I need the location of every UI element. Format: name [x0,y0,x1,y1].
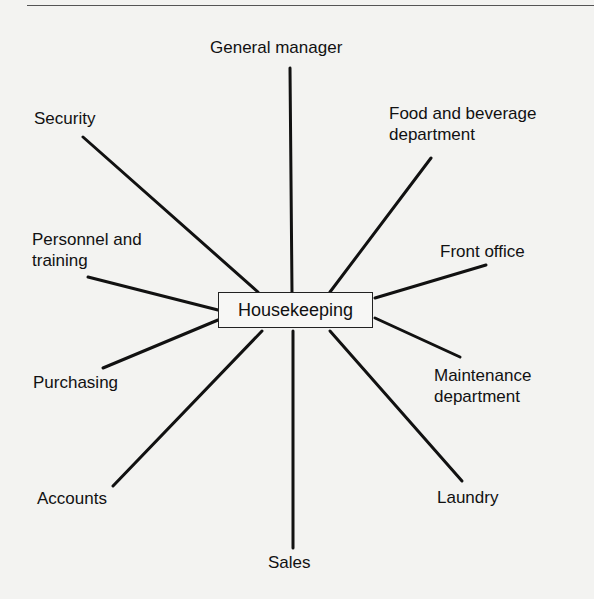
node-sales: Sales [268,552,311,573]
node-maintenance: Maintenance department [434,365,531,407]
line-maintenance [375,318,460,357]
line-personnel [88,277,218,310]
node-food-beverage: Food and beverage department [389,103,536,145]
node-security: Security [34,108,95,129]
line-purchasing [103,320,218,368]
housekeeping-node: Housekeeping [218,292,373,328]
node-personnel-training: Personnel and training [32,229,142,271]
node-accounts: Accounts [37,488,107,509]
line-front-office [375,265,486,298]
node-front-office: Front office [440,241,525,262]
node-general-manager: General manager [210,37,342,58]
line-general-manager [290,68,292,292]
node-purchasing: Purchasing [33,372,118,393]
node-laundry: Laundry [437,487,498,508]
line-food-beverage [330,158,431,292]
